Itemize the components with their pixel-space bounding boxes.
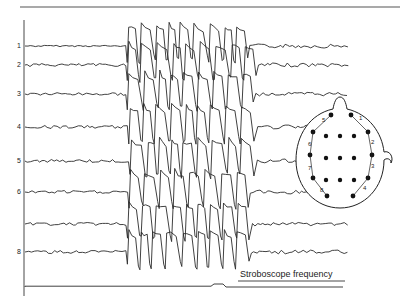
channel-label: 5: [17, 157, 21, 164]
electrode: [338, 156, 342, 160]
electrode: [352, 134, 356, 138]
electrode: [352, 178, 356, 182]
electrode: [324, 178, 328, 182]
electrode: [324, 156, 328, 160]
channel-label: 8: [17, 248, 21, 255]
channel-label: 2: [17, 61, 21, 68]
electrode-montage-diagram: 12345678: [296, 97, 392, 208]
electrode: [338, 178, 342, 182]
stroboscope-trace: Stroboscope frequency: [25, 269, 345, 287]
eeg-channel-trace: [25, 103, 347, 144]
eeg-channel-trace: [25, 41, 348, 82]
eeg-channel-trace: [25, 202, 348, 242]
eeg-chart: 1234568 Stroboscope frequency 12345678: [0, 0, 404, 303]
channel-label: 3: [17, 90, 21, 97]
electrode: [352, 156, 356, 160]
channel-labels: 1234568: [17, 42, 21, 255]
electrode: [338, 134, 342, 138]
eeg-channel-trace: [25, 230, 347, 270]
channel-label: 6: [17, 188, 21, 195]
channel-label: 4: [17, 123, 21, 130]
channel-label: 1: [17, 42, 21, 49]
stroboscope-label: Stroboscope frequency: [240, 269, 333, 279]
electrode: [324, 134, 328, 138]
eeg-channel-trace: [25, 22, 348, 64]
